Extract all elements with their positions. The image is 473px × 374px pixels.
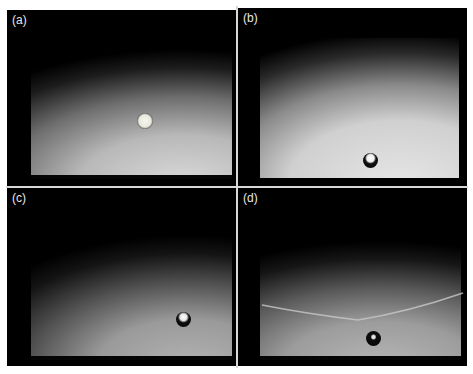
panel-d: (d) xyxy=(238,188,467,366)
sphere xyxy=(366,331,381,346)
sphere xyxy=(363,153,378,168)
baseline-edge xyxy=(31,356,232,360)
illuminated-region xyxy=(31,228,232,356)
baseline-edge xyxy=(31,175,232,179)
panel-label: (a) xyxy=(12,13,27,27)
streak-line xyxy=(238,188,467,366)
sphere xyxy=(137,113,153,129)
panel-b: (b) xyxy=(238,8,467,186)
illuminated-region xyxy=(260,38,459,178)
figure-grid: (a) (b) (c) (d) xyxy=(0,0,473,374)
panel-label: (d) xyxy=(243,191,258,205)
sphere xyxy=(176,312,191,327)
panel-c: (c) xyxy=(7,188,236,366)
horizontal-divider xyxy=(6,186,468,188)
illuminated-region xyxy=(31,50,232,175)
panel-label: (c) xyxy=(12,191,26,205)
panel-a: (a) xyxy=(7,10,236,187)
panel-label: (b) xyxy=(243,11,258,25)
baseline-edge xyxy=(260,356,461,360)
